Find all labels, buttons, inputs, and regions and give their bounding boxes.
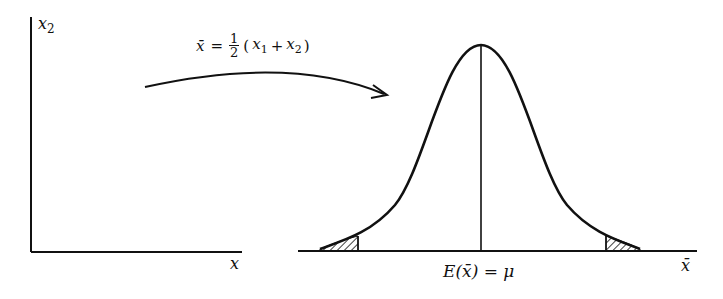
x2-var: x (286, 35, 294, 53)
transform-formula: x̄ = 1 2 ( x1 + x2 ) (196, 32, 310, 59)
x-axis-var: x (230, 254, 239, 273)
x1-subscript: 1 (261, 43, 268, 56)
x2-subscript: 2 (295, 43, 302, 56)
fraction-denominator: 2 (230, 46, 238, 59)
x1-var: x (252, 35, 260, 53)
transform-arrow (145, 73, 387, 98)
expectation-label: E(x̄) = μ (443, 261, 514, 281)
equals-sign: = (210, 37, 223, 55)
left-y-axis-label: x2 (38, 14, 55, 36)
xbar-symbol: x̄ (196, 37, 204, 55)
x2-term: x2 (286, 35, 301, 56)
xbar-axis-var: x̄ (681, 256, 690, 275)
normal-curve (320, 45, 640, 249)
sampling-distribution-diagram (0, 0, 723, 299)
x1-term: x1 (252, 35, 267, 56)
paren-close: ) (304, 37, 310, 55)
arrow-curve (145, 73, 384, 94)
mean-label: E(x̄) = μ (443, 261, 514, 281)
paren-open: ( (243, 37, 249, 55)
fraction: 1 2 (229, 32, 239, 59)
plus-sign: + (271, 37, 284, 55)
y-axis-var: x (38, 14, 47, 33)
right-x-axis-label: x̄ (681, 256, 690, 275)
fraction-numerator: 1 (229, 32, 239, 46)
y-axis-subscript: 2 (47, 22, 55, 36)
left-tail-shading (320, 236, 358, 251)
left-x-axis-label: x (230, 254, 239, 273)
